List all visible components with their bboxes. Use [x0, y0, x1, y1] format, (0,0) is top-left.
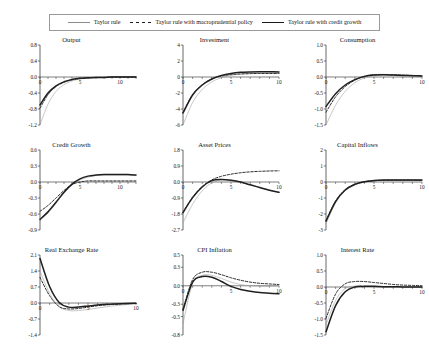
x-tick-label: 10 — [419, 79, 424, 85]
x-tick-label: 5 — [230, 79, 233, 85]
chart-panel: Asset Prices1.80.90.0-0.9-1.8-2.70510 — [143, 141, 286, 246]
y-tick-label: 0.0 — [316, 284, 323, 290]
y-tick-label: 0 — [177, 74, 180, 80]
chart-legend: Taylor rule Taylor rule with macropruden… — [49, 14, 380, 31]
x-tick-label: 5 — [230, 184, 233, 190]
x-axis-ticks: 0510 — [183, 288, 279, 297]
y-tick-label: -0.8 — [172, 332, 180, 338]
chart-panel: Interest Rate1.00.50.0-0.5-1.0-1.50510 — [286, 246, 429, 351]
y-axis-ticks: 210-1-2-3 — [296, 150, 323, 230]
legend-item-taylor-rule: Taylor rule — [68, 19, 121, 26]
x-tick-label: 10 — [276, 184, 281, 190]
x-tick-label: 5 — [79, 184, 82, 190]
x-axis-ticks: 0510 — [326, 184, 422, 193]
x-tick-label: 10 — [117, 79, 122, 85]
y-tick-label: 0.0 — [173, 283, 180, 289]
x-tick-label: 5 — [87, 305, 90, 311]
y-tick-label: 1 — [320, 163, 323, 169]
y-tick-label: -0.8 — [29, 106, 37, 112]
y-tick-label: 0.8 — [30, 42, 37, 48]
chart-panel: Investment420-2-4-60510 — [143, 36, 286, 141]
y-tick-label: 2 — [320, 147, 323, 153]
y-tick-label: 1.4 — [30, 268, 37, 274]
y-tick-label: 4 — [177, 42, 180, 48]
y-tick-label: 0.5 — [316, 58, 323, 64]
x-tick-label: 0 — [39, 305, 42, 311]
chart-panel: CPI Inflation0.50.30.0-0.3-0.5-0.80510 — [143, 246, 286, 351]
legend-label: Taylor rule with macroprudential policy — [156, 19, 253, 26]
y-tick-label: -0.5 — [172, 314, 180, 320]
y-tick-label: -3 — [319, 227, 323, 233]
y-tick-label: 0.3 — [30, 163, 37, 169]
y-axis-ticks: 0.50.30.0-0.3-0.5-0.8 — [153, 255, 180, 335]
y-axis-ticks: 2.11.40.70.0-0.7-1.4 — [10, 255, 37, 335]
y-tick-label: -1.5 — [315, 332, 323, 338]
y-tick-label: 0.6 — [30, 147, 37, 153]
y-tick-label: -1.0 — [315, 106, 323, 112]
y-tick-label: 0.0 — [316, 74, 323, 80]
x-tick-label: 0 — [39, 184, 42, 190]
y-tick-label: -0.3 — [29, 195, 37, 201]
chart-panel: Real Exchange Rate2.11.40.70.0-0.7-1.405… — [0, 246, 143, 351]
y-tick-label: -2 — [319, 211, 323, 217]
y-tick-label: -6 — [176, 122, 180, 128]
y-tick-label: 0.5 — [316, 268, 323, 274]
x-tick-label: 0 — [182, 288, 185, 294]
x-tick-label: 5 — [79, 79, 82, 85]
figure-root: Taylor rule Taylor rule with macropruden… — [0, 0, 429, 351]
x-axis-ticks: 0510 — [326, 79, 422, 88]
y-tick-label: -0.7 — [29, 316, 37, 322]
y-tick-label: 2.1 — [30, 252, 37, 258]
chart-panel: Output0.80.40.0-0.4-0.8-1.20510 — [0, 36, 143, 141]
y-axis-ticks: 420-2-4-6 — [153, 45, 180, 125]
chart-panel: Consumption1.00.50.0-0.5-1.0-1.50510 — [286, 36, 429, 141]
y-tick-label: -0.5 — [315, 90, 323, 96]
series-line — [40, 258, 136, 307]
x-tick-label: 0 — [182, 184, 185, 190]
y-tick-label: 0.3 — [173, 264, 180, 270]
y-tick-label: -0.5 — [315, 300, 323, 306]
x-tick-label: 10 — [276, 288, 281, 294]
y-axis-ticks: 0.80.40.0-0.4-0.8-1.2 — [10, 45, 37, 125]
y-tick-label: -0.3 — [172, 301, 180, 307]
x-axis-ticks: 0510 — [40, 79, 136, 88]
y-tick-label: 0.7 — [30, 284, 37, 290]
panel-grid: Output0.80.40.0-0.4-0.8-1.20510Investmen… — [0, 36, 429, 351]
y-tick-label: -0.4 — [29, 90, 37, 96]
y-axis-ticks: 1.00.50.0-0.5-1.0-1.5 — [296, 45, 323, 125]
y-tick-label: -0.6 — [29, 211, 37, 217]
y-tick-label: -2.7 — [172, 227, 180, 233]
y-tick-label: -0.9 — [29, 227, 37, 233]
x-axis-ticks: 0510 — [183, 184, 279, 193]
x-tick-label: 10 — [133, 305, 138, 311]
x-axis-ticks: 0510 — [326, 289, 422, 298]
y-tick-label: 1.0 — [316, 252, 323, 258]
x-axis-ticks: 0510 — [183, 79, 279, 88]
y-tick-label: 2 — [177, 58, 180, 64]
x-axis-ticks: 0510 — [40, 305, 136, 314]
y-tick-label: -4 — [176, 106, 180, 112]
y-axis-ticks: 1.80.90.0-0.9-1.8-2.7 — [153, 150, 180, 230]
x-tick-label: 0 — [325, 184, 328, 190]
x-tick-label: 0 — [182, 79, 185, 85]
y-tick-label: -1.0 — [315, 316, 323, 322]
x-tick-label: 0 — [325, 289, 328, 295]
y-tick-label: 0.0 — [30, 300, 37, 306]
y-tick-label: -1.2 — [29, 122, 37, 128]
legend-label: Taylor rule with credit growth — [288, 19, 361, 26]
x-tick-label: 5 — [230, 288, 233, 294]
legend-line-solid-thin-icon — [68, 21, 90, 24]
y-axis-ticks: 0.60.30.0-0.3-0.6-0.9 — [10, 150, 37, 230]
legend-item-credit-growth: Taylor rule with credit growth — [262, 19, 361, 26]
y-tick-label: 0.4 — [30, 58, 37, 64]
y-tick-label: 0.0 — [30, 179, 37, 185]
x-tick-label: 5 — [373, 79, 376, 85]
y-axis-ticks: 1.00.50.0-0.5-1.0-1.5 — [296, 255, 323, 335]
x-tick-label: 5 — [373, 289, 376, 295]
series-line — [183, 275, 279, 324]
y-tick-label: 1.8 — [173, 147, 180, 153]
y-tick-label: 0.5 — [173, 252, 180, 258]
y-tick-label: 1.0 — [316, 42, 323, 48]
x-tick-label: 0 — [325, 79, 328, 85]
x-tick-label: 10 — [419, 289, 424, 295]
